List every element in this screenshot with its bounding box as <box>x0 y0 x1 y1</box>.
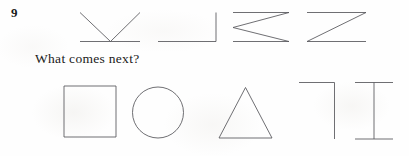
option-3-triangle[interactable] <box>219 88 272 139</box>
option-5-i-beam[interactable] <box>355 83 393 140</box>
option-4-corner-bracket[interactable] <box>299 83 335 140</box>
option-1-square[interactable] <box>64 86 116 137</box>
answer-options-row <box>0 0 409 156</box>
option-2-circle[interactable] <box>133 87 184 138</box>
puzzle-page: 9 What comes next? <box>0 0 409 156</box>
